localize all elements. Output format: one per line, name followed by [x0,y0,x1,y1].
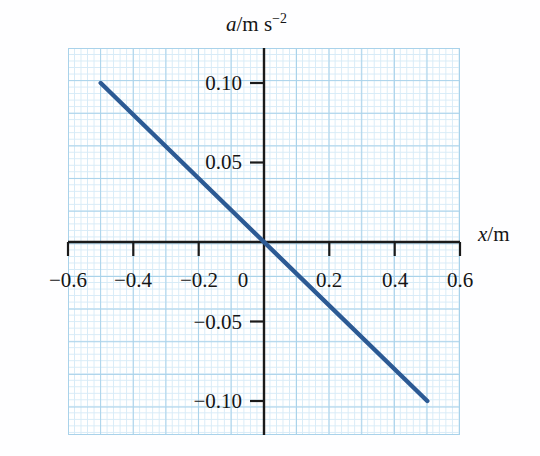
x-tick-label-0: 0 [238,270,249,291]
x-tick-label-0-6: 0.6 [447,270,473,291]
x-tick-label-0-2: 0.2 [316,270,342,291]
x-axis-title: x/m [478,224,510,245]
y-tick-label-minus-0-10: −0.10 [166,391,242,412]
x-tick-label-minus-0-2: −0.2 [180,270,218,291]
y-tick-label-0-05: 0.05 [176,152,242,173]
x-tick-label-0-4: 0.4 [382,270,408,291]
x-tick-label-minus-0-4: −0.4 [114,270,152,291]
y-tick-label-0-10: 0.10 [176,73,242,94]
x-tick-label-minus-0-6: −0.6 [49,270,87,291]
y-tick-label-minus-0-05: −0.05 [166,312,242,333]
y-axis-title: a/m s−2 [226,14,287,35]
plot-axes-and-data [0,0,540,456]
figure-canvas: a/m s−2 x/m −0.6 −0.4 −0.2 0 0.2 0.4 0.6… [0,0,540,456]
